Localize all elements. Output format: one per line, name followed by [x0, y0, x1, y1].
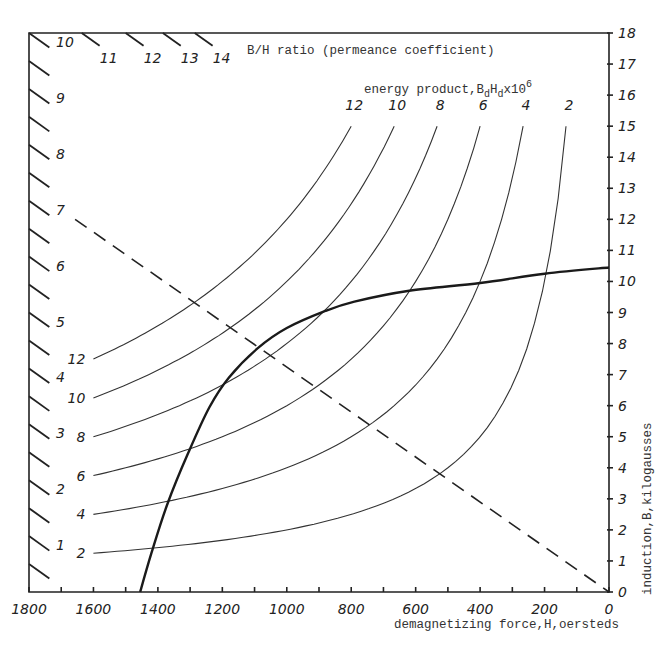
energy-product-curve-label: 10 [68, 390, 86, 406]
permeance-tick [29, 201, 49, 216]
y-tick-label: 1 [618, 553, 627, 569]
data-series [75, 219, 609, 592]
permeance-tick [29, 536, 49, 551]
permeance-label: 14 [213, 50, 231, 66]
permeance-tick [29, 89, 49, 104]
y-tick-label: 2 [618, 522, 627, 538]
y-tick-label: 16 [618, 87, 636, 103]
x-tick-label: 1800 [11, 601, 47, 617]
x-tick-label: 1600 [76, 601, 112, 617]
x-tick-label: 800 [338, 601, 365, 617]
y-tick-label: 14 [618, 149, 636, 165]
permeance-label: 1 [56, 537, 65, 553]
permeance-label: 2 [56, 481, 65, 497]
permeance-tick [29, 117, 49, 132]
permeance-tick [29, 61, 49, 76]
permeance-tick [29, 173, 49, 188]
y-tick-label: 9 [618, 305, 627, 321]
energy-product-curve-label: 2 [565, 97, 574, 113]
y-tick-label: 3 [618, 491, 627, 507]
energy-product-curve [93, 126, 566, 553]
y-tick-label: 0 [618, 584, 627, 600]
permeance-label: 11 [100, 50, 118, 66]
permeance-label: 9 [56, 90, 65, 106]
y-axis-label: induction,B,kilogausses [641, 422, 655, 595]
energy-product-curve-label: 12 [68, 351, 86, 367]
energy-product-curve-label: 4 [77, 506, 86, 522]
y-tick-label: 11 [618, 242, 636, 258]
energy-product-curve-label: 12 [345, 97, 363, 113]
permeance-title: B/H ratio (permeance coefficient) [247, 44, 495, 58]
permeance-label: 8 [56, 146, 65, 162]
energy-product-curve-label: 8 [436, 97, 445, 113]
x-tick-label: 0 [605, 601, 614, 617]
permeance-tick [29, 396, 49, 411]
permeance-tick [29, 564, 49, 579]
energy-product-curve [93, 126, 480, 475]
bh-demagnetization-chart: 180016001400120010008006004002000 012345… [0, 0, 671, 647]
permeance-tick [29, 257, 49, 272]
permeance-tick [29, 452, 49, 467]
permeance-tick [29, 145, 49, 160]
permeance-tick [195, 33, 213, 46]
permeance-tick [29, 368, 49, 383]
energy-product-curve [93, 126, 351, 359]
y-tick-label: 10 [618, 273, 636, 289]
permeance-tick [29, 340, 49, 355]
y-tick-label: 15 [618, 118, 636, 134]
permeance-label: 6 [56, 258, 65, 274]
energy-product-curve-label: 2 [77, 545, 86, 561]
y-tick-label: 12 [618, 211, 636, 227]
y-axis-ticks: 0123456789101112131415161718 [607, 25, 636, 600]
y-tick-label: 8 [618, 336, 627, 352]
x-tick-label: 200 [531, 601, 558, 617]
permeance-label: 13 [181, 50, 199, 66]
energy-product-curve-label: 4 [522, 97, 531, 113]
permeance-label: 4 [56, 369, 65, 385]
permeance-tick [29, 229, 49, 244]
x-tick-label: 1000 [269, 601, 305, 617]
permeance-label: 7 [56, 202, 65, 218]
permeance-tick [29, 424, 49, 439]
energy-product-curve-label: 6 [77, 468, 86, 484]
permeance-tick [29, 33, 49, 48]
y-tick-label: 13 [618, 180, 636, 196]
y-tick-label: 18 [618, 25, 636, 41]
permeance-tick [163, 33, 181, 46]
permeance-label: 12 [144, 50, 162, 66]
x-tick-label: 400 [467, 601, 494, 617]
energy-product-title: energy product,BdHdx106 [364, 79, 532, 100]
energy-product-curve [93, 126, 394, 398]
permeance-label: 5 [56, 314, 65, 330]
permeance-tick [126, 33, 144, 46]
energy-product-curve [93, 126, 437, 437]
permeance-tick [29, 285, 49, 300]
permeance-tick [29, 480, 49, 495]
x-tick-label: 600 [402, 601, 429, 617]
permeance-tick [29, 313, 49, 328]
y-tick-label: 7 [618, 367, 627, 383]
permeance-tick [29, 508, 49, 523]
energy-product-curve [93, 126, 523, 514]
y-tick-label: 6 [618, 398, 627, 414]
energy-product-curve-label: 10 [388, 97, 406, 113]
x-tick-label: 1200 [205, 601, 241, 617]
energy-product-curve-label: 8 [77, 429, 86, 445]
y-tick-label: 4 [618, 460, 627, 476]
permeance-tick [82, 33, 100, 46]
permeance-label: 3 [56, 425, 65, 441]
x-axis-label: demagnetizing force,H,oersteds [394, 618, 619, 632]
permeance-scale: 1234567891011121314 [29, 33, 231, 579]
x-tick-label: 1400 [140, 601, 176, 617]
permeance-label: 10 [56, 34, 74, 50]
y-tick-label: 17 [618, 56, 636, 72]
y-tick-label: 5 [618, 429, 627, 445]
energy-product-curves: 2244668810101212 [68, 97, 574, 561]
